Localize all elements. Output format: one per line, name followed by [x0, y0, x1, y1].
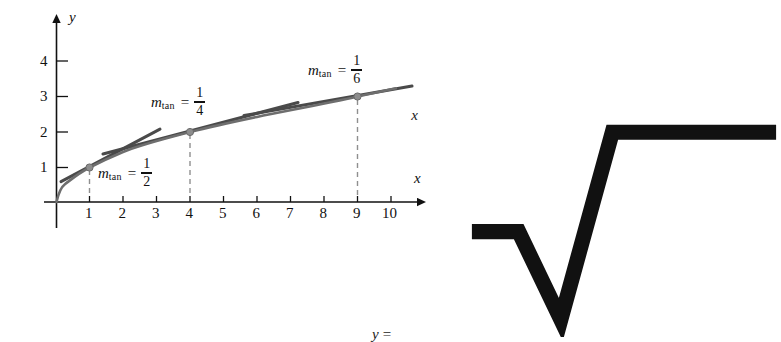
square-root-icon: x — [397, 105, 781, 339]
mtan-denominator-2: 4 — [194, 104, 205, 118]
mtan-denominator-3: 6 — [351, 72, 362, 86]
mtan-fraction-1: 1 2 — [141, 157, 152, 189]
mtan-symbol-m-1: m — [98, 166, 109, 181]
y-axis-ticks — [57, 61, 69, 168]
mtan-subscript-1: tan — [109, 172, 122, 182]
mtan-equals-1: = — [128, 166, 136, 181]
y-tick-label-4: 4 — [40, 54, 48, 69]
mtan-equals-2: = — [181, 95, 189, 110]
x-tick-label-3: 3 — [152, 206, 160, 221]
point-9-3 — [354, 93, 361, 100]
mtan-equals-3: = — [338, 63, 346, 78]
x-tick-label-8: 8 — [320, 206, 328, 221]
curve-label-equals: = — [383, 327, 391, 342]
y-tick-label-3: 3 — [40, 89, 48, 104]
mtan-numerator-2: 1 — [194, 86, 205, 100]
mtan-numerator-1: 1 — [141, 157, 152, 171]
x-tick-label-2: 2 — [119, 206, 127, 221]
annotation-mtan-half: mtan = 1 2 — [98, 158, 152, 190]
x-tick-label-4: 4 — [186, 206, 194, 221]
annotation-mtan-sixth: mtan = 1 6 — [308, 55, 362, 87]
x-tick-label-1: 1 — [85, 206, 93, 221]
x-tick-label-5: 5 — [219, 206, 227, 221]
mtan-symbol-m-3: m — [308, 63, 319, 78]
mtan-subscript-2: tan — [162, 101, 175, 111]
mtan-symbol-m-2: m — [151, 95, 162, 110]
mtan-subscript-3: tan — [319, 69, 332, 79]
annotation-mtan-quarter: mtan = 1 4 — [151, 87, 205, 119]
x-tick-label-7: 7 — [286, 206, 294, 221]
curve-equation-label: y = x — [372, 105, 781, 342]
curve-label-y: y — [372, 327, 379, 342]
x-tick-label-9: 9 — [353, 206, 361, 221]
point-1-1 — [86, 164, 93, 171]
mtan-fraction-3: 1 6 — [351, 54, 362, 86]
mtan-fraction-2: 1 4 — [194, 86, 205, 118]
curve-label-radicand: x — [411, 108, 418, 123]
mtan-denominator-1: 2 — [141, 175, 152, 189]
x-tick-label-6: 6 — [253, 206, 261, 221]
y-tick-label-1: 1 — [40, 160, 48, 175]
x-axis-ticks — [90, 196, 392, 202]
point-4-2 — [186, 128, 193, 135]
mtan-numerator-3: 1 — [351, 54, 362, 68]
y-axis-label: y — [69, 10, 76, 25]
y-tick-label-2: 2 — [40, 125, 48, 140]
